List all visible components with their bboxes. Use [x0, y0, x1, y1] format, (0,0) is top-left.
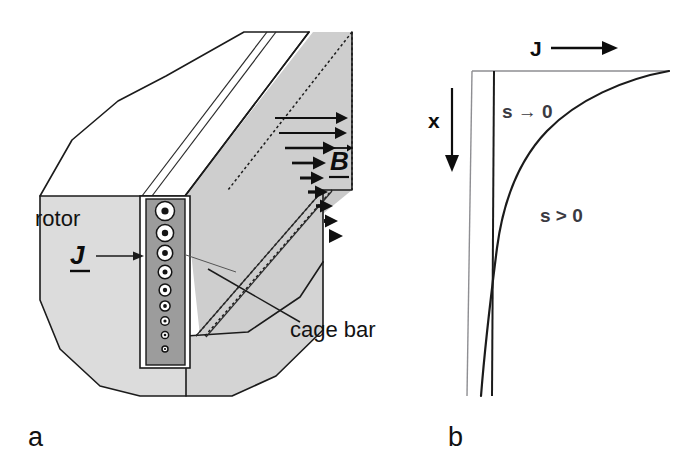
circle-dot-icon	[157, 245, 172, 260]
circle-dot-icon	[156, 202, 175, 221]
circle-dot-icon	[160, 301, 170, 311]
figure-root: B rotor J cage bar a	[0, 0, 676, 466]
flux-density-label: B	[330, 146, 349, 176]
figure-canvas: B rotor J cage bar a	[0, 0, 676, 466]
circle-dot-icon	[161, 331, 168, 338]
j-axis-label: J	[530, 37, 542, 60]
rotor-label: rotor	[35, 206, 80, 231]
circle-dot-icon	[158, 265, 172, 279]
circle-dot-icon	[162, 346, 168, 352]
circle-dot-icon	[159, 284, 171, 296]
panel-letter-b: b	[448, 422, 463, 452]
circle-dot-icon	[161, 317, 170, 326]
panel-letter-a: a	[28, 422, 44, 452]
curve-label-high-slip: s > 0	[540, 205, 583, 226]
cage-bar-label: cage bar	[290, 317, 376, 342]
x-axis-label: x	[428, 109, 440, 132]
circle-dot-icon	[156, 224, 173, 241]
current-density-label: J	[70, 240, 85, 270]
curve-label-low-slip: s → 0	[502, 101, 553, 122]
